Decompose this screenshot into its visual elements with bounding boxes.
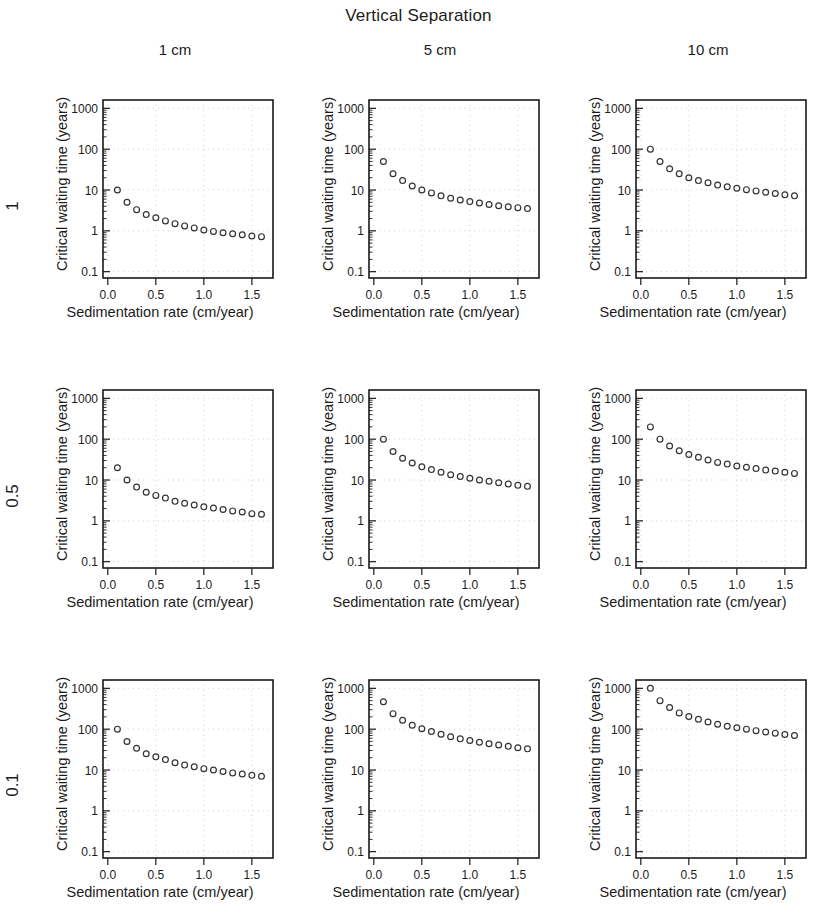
x-tick-label: 0.0 [365,868,382,882]
data-point [724,723,730,729]
plot-panel: 0.111010010000.00.51.01.5Critical waitin… [555,378,823,628]
data-point [438,193,444,199]
data-point [772,191,778,197]
x-tick-label: 0.5 [147,578,164,592]
data-point [448,734,454,740]
x-tick-label: 0.5 [147,288,164,302]
data-point [753,728,759,734]
data-point [381,159,387,165]
y-tick-label: 10 [351,474,365,488]
data-point [163,218,169,224]
y-tick-label: 10 [618,184,632,198]
y-tick-label: 100 [78,143,98,157]
plot-panel: 0.111010010000.00.51.01.5Critical waitin… [555,668,823,918]
data-point [220,769,226,775]
data-point [676,171,682,177]
data-point [390,449,396,455]
y-tick-label: 1 [624,224,631,238]
data-point [115,726,121,732]
data-point [525,746,531,752]
data-point [134,745,140,751]
x-tick-label: 0.0 [632,578,649,592]
data-point [772,730,778,736]
x-tick-label: 1.0 [729,288,746,302]
row-header-0-5: 0.5 [3,483,23,509]
data-point [457,474,463,480]
y-axis-ticks [103,108,110,271]
data-point [486,478,492,484]
y-axis-ticks [103,688,110,851]
x-tick-label: 1.0 [196,578,213,592]
data-point [496,742,502,748]
y-tick-label: 1 [357,224,364,238]
data-point [686,452,692,458]
data-point [163,757,169,763]
data-point [220,507,226,513]
data-point [134,207,140,213]
data-point [409,722,415,728]
plot-frame [636,390,806,568]
x-tick-label: 1.5 [244,868,261,882]
x-axis-label: Sedimentation rate (cm/year) [577,884,809,900]
figure-title: Vertical Separation [0,6,837,26]
y-axis-ticks [369,398,376,561]
y-tick-label: 10 [618,474,632,488]
data-point [409,183,415,189]
x-tick-label: 0.0 [365,288,382,302]
x-tick-label: 0.5 [413,868,430,882]
y-tick-label: 1000 [604,102,631,116]
data-point [657,159,663,165]
data-point [792,471,798,477]
data-point [400,717,406,723]
data-point [657,698,663,704]
data-point [230,770,236,776]
data-point [705,719,711,725]
grid-lines [103,680,273,858]
row-header-1: 1 [3,193,23,219]
data-point [486,202,492,208]
y-tick-label: 100 [344,143,364,157]
x-tick-label: 1.5 [244,288,261,302]
data-point [496,203,502,209]
y-tick-label: 1 [357,514,364,528]
data-point [667,166,673,172]
data-point [705,180,711,186]
y-tick-label: 100 [344,723,364,737]
data-point [182,223,188,229]
y-axis-label: Critical waiting time (years) [587,384,603,564]
plot-frame [369,390,539,568]
data-point [763,189,769,195]
y-tick-label: 1 [91,224,98,238]
data-point [467,199,473,205]
x-tick-label: 1.0 [729,578,746,592]
y-tick-label: 0.1 [347,555,364,569]
plot-frame [103,390,273,568]
y-tick-label: 0.1 [81,265,98,279]
x-axis-ticks [108,858,252,865]
data-series-markers [648,146,798,198]
x-tick-label: 1.5 [777,578,794,592]
data-point [172,760,178,766]
x-tick-label: 1.0 [196,288,213,302]
data-point [782,732,788,738]
plot-panel: 0.111010010000.00.51.01.5Critical waitin… [288,378,556,628]
plot-frame [103,680,273,858]
x-axis-label: Sedimentation rate (cm/year) [44,884,276,900]
grid-lines [103,100,273,278]
data-point [772,468,778,474]
data-point [172,498,178,504]
grid-lines [369,680,539,858]
y-tick-label: 0.1 [614,845,631,859]
y-tick-label: 10 [351,184,365,198]
data-point [715,721,721,727]
grid-lines [369,100,539,278]
y-tick-label: 1000 [604,682,631,696]
data-point [390,711,396,717]
data-point [438,731,444,737]
plot-panel: 0.111010010000.00.51.01.5Critical waitin… [288,88,556,338]
data-point [792,733,798,739]
data-point [696,178,702,184]
grid-lines [369,390,539,568]
plot-frame [636,100,806,278]
x-tick-label: 0.0 [632,868,649,882]
